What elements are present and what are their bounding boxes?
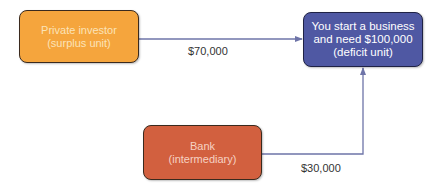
edge-bank-to-business [262, 68, 363, 154]
node-private-investor-subtitle: (surplus unit) [41, 37, 117, 50]
edge-label-investor-amount: $70,000 [188, 45, 228, 57]
node-bank-title: Bank [169, 140, 237, 153]
node-private-investor: Private investor (surplus unit) [19, 10, 139, 63]
node-bank: Bank (intermediary) [143, 125, 262, 180]
node-business: You start a business and need $100,000 (… [303, 12, 423, 67]
edge-label-bank-amount: $30,000 [301, 162, 341, 174]
node-business-text: You start a business and need $100,000 (… [310, 20, 416, 59]
node-bank-subtitle: (intermediary) [169, 153, 237, 166]
node-private-investor-title: Private investor [41, 24, 117, 37]
